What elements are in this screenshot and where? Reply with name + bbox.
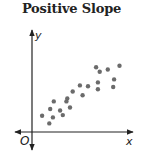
data-point (51, 115, 55, 119)
data-point (65, 96, 69, 100)
data-point (71, 89, 75, 93)
data-point (96, 87, 100, 91)
data-points (40, 63, 122, 125)
data-point (111, 85, 115, 89)
scatter-plot: y x O (0, 0, 143, 165)
data-point (98, 70, 102, 74)
data-point (80, 93, 84, 97)
data-point (78, 83, 82, 87)
data-point (86, 84, 90, 88)
x-axis-label: x (125, 135, 133, 148)
data-point (96, 80, 100, 84)
y-axis-label: y (34, 29, 42, 42)
data-point (94, 65, 98, 69)
data-point (112, 77, 116, 81)
data-point (68, 105, 72, 109)
data-point (106, 67, 110, 71)
data-point (40, 114, 44, 118)
data-point (61, 113, 65, 117)
data-point (48, 107, 52, 111)
data-point (58, 108, 62, 112)
data-point (52, 99, 56, 103)
origin-label: O (20, 134, 29, 148)
data-point (47, 121, 51, 125)
data-point (117, 63, 121, 67)
